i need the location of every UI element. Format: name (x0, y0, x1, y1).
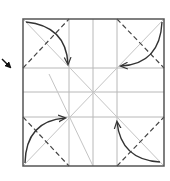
pointer-arrow-icon (2, 59, 10, 67)
origami-diagram (0, 0, 170, 181)
